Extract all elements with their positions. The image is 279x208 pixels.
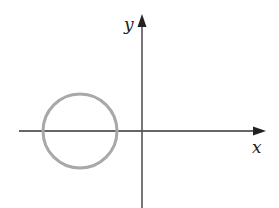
y-axis-label: y (123, 14, 134, 34)
x-axis-arrowhead-icon (253, 127, 266, 136)
y-axis-arrowhead-icon (138, 14, 147, 27)
x-axis-label: x (252, 137, 262, 157)
coordinate-diagram: y x (0, 0, 279, 208)
y-axis (138, 14, 147, 208)
